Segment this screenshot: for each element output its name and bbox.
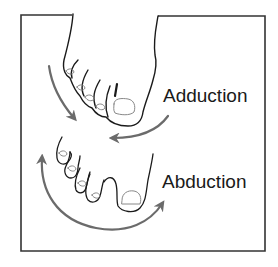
adduction-abduction-diagram xyxy=(0,0,278,267)
outward-double-curved-arrow-icon xyxy=(42,158,162,230)
foot-toes-together-icon xyxy=(63,14,158,126)
adduction-label: Adduction xyxy=(163,86,248,105)
abduction-label: Abduction xyxy=(162,172,247,191)
foot-toes-spread-icon xyxy=(57,137,153,212)
